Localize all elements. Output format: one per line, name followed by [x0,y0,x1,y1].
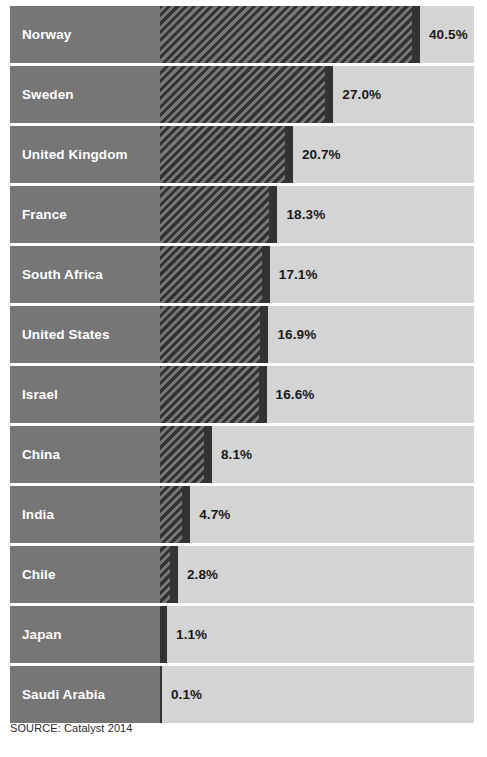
bar-value-label: 20.7% [302,126,341,183]
bar-fill [160,486,190,543]
horizontal-bar-chart: Norway40.5%Sweden27.0%United Kingdom20.7… [0,0,487,757]
bar-row: France18.3% [10,186,474,243]
bar-fill [160,666,162,723]
bar-end-cap [412,6,420,63]
bar-fill [160,606,167,663]
bar-fill [160,366,267,423]
category-label-panel: Japan [10,606,160,663]
category-label: France [22,208,67,222]
bar-fill [160,186,277,243]
category-label-panel: Norway [10,6,160,63]
bar-end-cap [259,366,267,423]
bar-fill [160,246,270,303]
category-label-panel: Israel [10,366,160,423]
bar-end-cap [285,126,293,183]
bar-track [160,666,474,723]
category-label-panel: Sweden [10,66,160,123]
bar-end-cap [204,426,212,483]
bar-row: India4.7% [10,486,474,543]
category-label: Japan [22,628,62,642]
bar-value-label: 16.6% [276,366,315,423]
category-label-panel: South Africa [10,246,160,303]
bar-value-label: 18.3% [286,186,325,243]
category-label: Norway [22,28,71,42]
bar-track [160,366,474,423]
bar-value-label: 8.1% [221,426,252,483]
category-label-panel: France [10,186,160,243]
bar-value-label: 0.1% [171,666,202,723]
bar-fill [160,6,420,63]
bar-row: China8.1% [10,426,474,483]
bar-row: Chile2.8% [10,546,474,603]
bar-fill [160,546,178,603]
bar-value-label: 2.8% [187,546,218,603]
bar-value-label: 17.1% [279,246,318,303]
category-label: India [22,508,54,522]
bar-fill [160,426,212,483]
bar-row: United Kingdom20.7% [10,126,474,183]
bar-track [160,6,474,63]
category-label: South Africa [22,268,103,282]
category-label-panel: Saudi Arabia [10,666,160,723]
bar-fill [160,126,293,183]
category-label: United Kingdom [22,148,128,162]
bar-row: Saudi Arabia0.1% [10,666,474,723]
bar-value-label: 40.5% [429,6,468,63]
category-label: Saudi Arabia [22,688,105,702]
category-label: Israel [22,388,58,402]
category-label-panel: United States [10,306,160,363]
bar-value-label: 4.7% [199,486,230,543]
bar-value-label: 27.0% [342,66,381,123]
bar-row-list: Norway40.5%Sweden27.0%United Kingdom20.7… [10,6,474,723]
bar-track [160,306,474,363]
bar-row: Israel16.6% [10,366,474,423]
bar-value-label: 16.9% [277,306,316,363]
bar-fill [160,306,268,363]
bar-track [160,66,474,123]
bar-end-cap [170,546,178,603]
bar-value-label: 1.1% [176,606,207,663]
bar-row: United States16.9% [10,306,474,363]
bar-row: Japan1.1% [10,606,474,663]
bar-end-cap [325,66,333,123]
category-label-panel: India [10,486,160,543]
category-label-panel: Chile [10,546,160,603]
source-note: SOURCE: Catalyst 2014 [10,722,133,734]
category-label: Chile [22,568,56,582]
bar-row: Sweden27.0% [10,66,474,123]
category-label-panel: China [10,426,160,483]
category-label: China [22,448,60,462]
bar-end-cap [160,606,167,663]
category-label-panel: United Kingdom [10,126,160,183]
category-label: United States [22,328,110,342]
bar-row: South Africa17.1% [10,246,474,303]
bar-end-cap [269,186,277,243]
bar-track [160,426,474,483]
bar-row: Norway40.5% [10,6,474,63]
bar-end-cap [160,666,162,723]
bar-end-cap [262,246,270,303]
category-label: Sweden [22,88,74,102]
bar-end-cap [260,306,268,363]
bar-end-cap [182,486,190,543]
bar-fill [160,66,333,123]
